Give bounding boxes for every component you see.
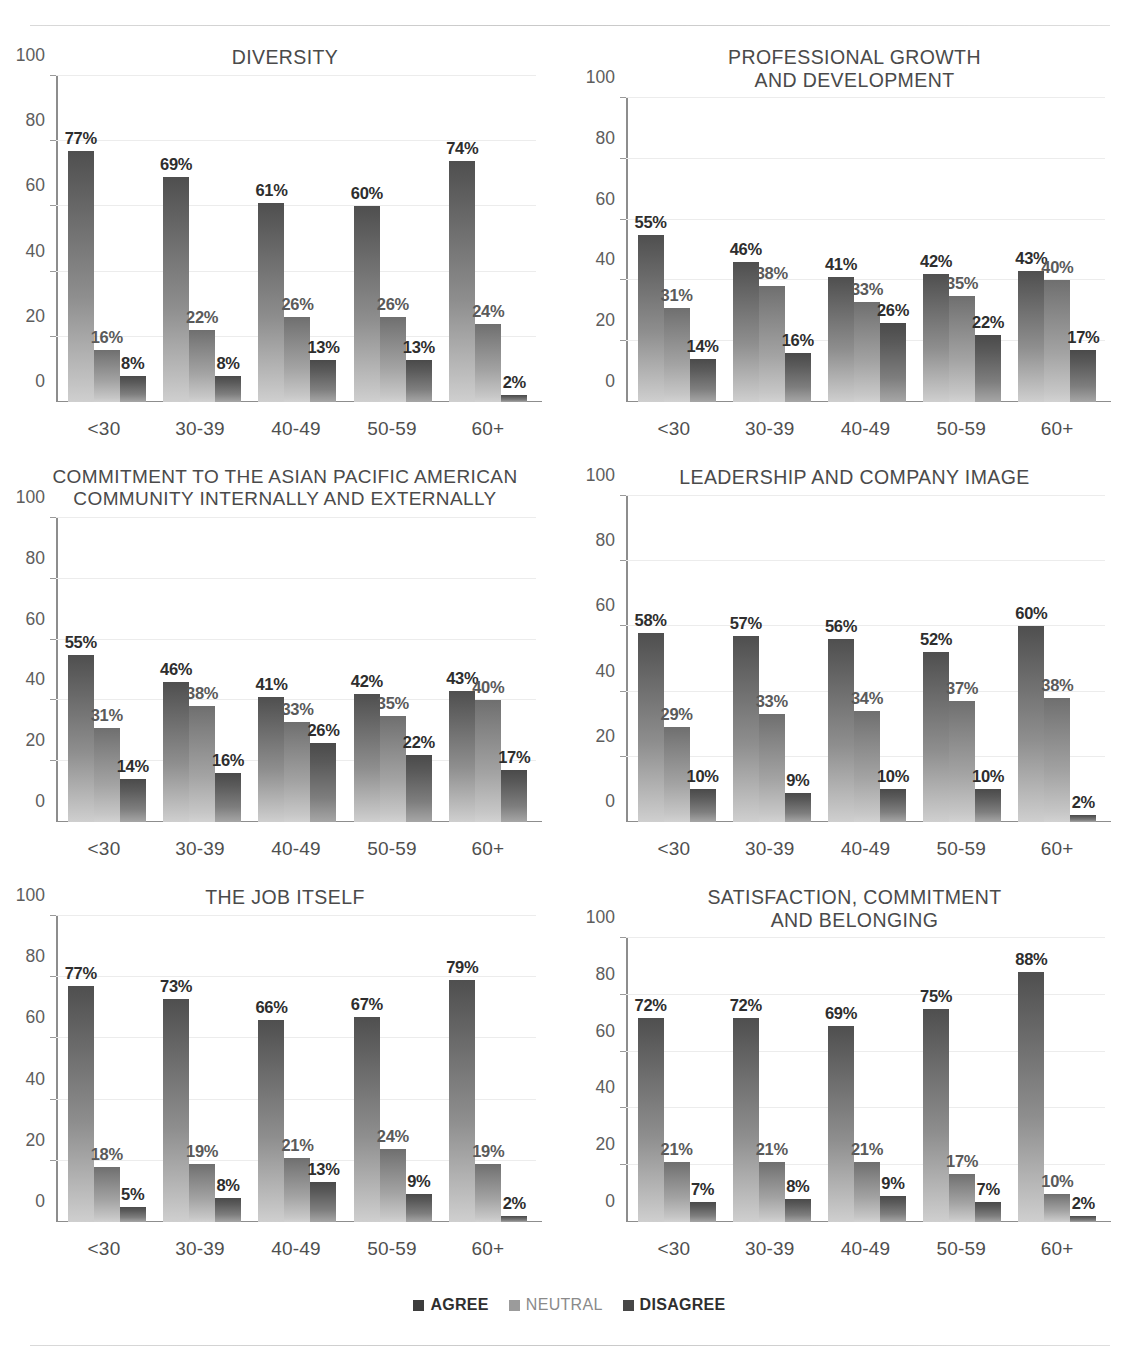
bar-disagree[interactable]: 14% xyxy=(120,779,146,822)
bar-value-label: 21% xyxy=(281,1136,313,1155)
bar-disagree[interactable]: 22% xyxy=(975,335,1001,402)
bar-neutral[interactable]: 37% xyxy=(949,701,975,822)
bar-disagree[interactable]: 7% xyxy=(690,1202,716,1222)
bar-disagree[interactable]: 8% xyxy=(120,376,146,402)
bar-neutral[interactable]: 19% xyxy=(475,1164,501,1222)
bar-neutral[interactable]: 22% xyxy=(189,330,215,402)
bar-value-label: 41% xyxy=(825,255,857,274)
bar-disagree[interactable]: 10% xyxy=(975,789,1001,822)
bar-disagree[interactable]: 14% xyxy=(690,359,716,402)
y-tick-mark xyxy=(50,140,56,141)
bar-disagree[interactable]: 17% xyxy=(1070,350,1096,402)
y-tick-mark xyxy=(50,1099,56,1100)
bar-disagree[interactable]: 2% xyxy=(1070,1216,1096,1222)
bar-neutral[interactable]: 18% xyxy=(94,1167,120,1222)
bar-disagree[interactable]: 10% xyxy=(690,789,716,822)
bar-agree[interactable]: 56% xyxy=(828,639,854,822)
bar-neutral[interactable]: 16% xyxy=(94,350,120,402)
bar-value-label: 38% xyxy=(186,684,218,703)
bar-disagree[interactable]: 13% xyxy=(310,360,336,402)
bar-agree[interactable]: 72% xyxy=(638,1018,664,1222)
bar-agree[interactable]: 69% xyxy=(828,1026,854,1222)
bar-agree[interactable]: 52% xyxy=(923,652,949,822)
bar-disagree[interactable]: 26% xyxy=(310,743,336,822)
bar-neutral[interactable]: 38% xyxy=(1044,698,1070,822)
bar-agree[interactable]: 43% xyxy=(449,691,475,822)
bar-neutral[interactable]: 35% xyxy=(380,716,406,822)
bar-agree[interactable]: 55% xyxy=(638,235,664,402)
bar-disagree[interactable]: 2% xyxy=(1070,815,1096,822)
bar-disagree[interactable]: 5% xyxy=(120,1207,146,1222)
bar-disagree[interactable]: 8% xyxy=(215,1198,241,1222)
bar-value-label: 31% xyxy=(661,286,693,305)
bar-disagree[interactable]: 9% xyxy=(880,1196,906,1222)
bar-agree[interactable]: 77% xyxy=(68,986,94,1222)
chart-panel-professional-growth-and-development: PROFESSIONAL GROWTH AND DEVELOPMENT02040… xyxy=(570,40,1139,460)
bar-agree[interactable]: 55% xyxy=(68,655,94,822)
x-axis-label: 40-49 xyxy=(254,838,338,860)
bar-disagree[interactable]: 2% xyxy=(501,1216,527,1222)
bar-agree[interactable]: 73% xyxy=(163,999,189,1222)
bar-disagree[interactable]: 7% xyxy=(975,1202,1001,1222)
bar-disagree[interactable]: 10% xyxy=(880,789,906,822)
x-axis-label: 30-39 xyxy=(728,838,812,860)
bar-neutral[interactable]: 17% xyxy=(949,1174,975,1222)
legend-item-neutral[interactable]: NEUTRAL xyxy=(509,1296,603,1314)
bar-disagree[interactable]: 22% xyxy=(406,755,432,822)
bar-disagree[interactable]: 8% xyxy=(215,376,241,402)
bar-value-label: 17% xyxy=(946,1152,978,1171)
bar-agree[interactable]: 42% xyxy=(923,274,949,402)
bar-neutral[interactable]: 33% xyxy=(759,714,785,822)
bar-value-label: 42% xyxy=(351,672,383,691)
bar-agree[interactable]: 72% xyxy=(733,1018,759,1222)
bar-disagree[interactable]: 16% xyxy=(215,773,241,822)
bar-agree[interactable]: 69% xyxy=(163,177,189,402)
bar-agree[interactable]: 79% xyxy=(449,980,475,1222)
legend-item-agree[interactable]: AGREE xyxy=(413,1296,488,1314)
bar-agree[interactable]: 67% xyxy=(354,1017,380,1222)
bar-group: 66%21%13% xyxy=(258,916,336,1222)
bar-neutral[interactable]: 21% xyxy=(664,1162,690,1222)
bar-disagree[interactable]: 26% xyxy=(880,323,906,402)
bar-neutral[interactable]: 35% xyxy=(949,296,975,402)
bar-agree[interactable]: 58% xyxy=(638,633,664,822)
bar-disagree[interactable]: 2% xyxy=(501,395,527,402)
chart-title: LEADERSHIP AND COMPANY IMAGE xyxy=(570,460,1139,496)
bar-disagree[interactable]: 8% xyxy=(785,1199,811,1222)
bar-neutral[interactable]: 10% xyxy=(1044,1194,1070,1222)
bar-neutral[interactable]: 19% xyxy=(189,1164,215,1222)
y-tick-mark xyxy=(50,976,56,977)
bar-neutral[interactable]: 26% xyxy=(380,317,406,402)
y-tick-mark xyxy=(620,691,626,692)
bar-value-label: 21% xyxy=(661,1140,693,1159)
bar-agree[interactable]: 77% xyxy=(68,151,94,402)
bar-agree[interactable]: 42% xyxy=(354,694,380,822)
bar-disagree[interactable]: 13% xyxy=(310,1182,336,1222)
y-tick-label: 100 xyxy=(586,907,615,928)
chart-panel-the-job-itself: THE JOB ITSELF02040608010077%18%5%73%19%… xyxy=(0,880,570,1280)
bar-neutral[interactable]: 21% xyxy=(759,1162,785,1222)
bar-neutral[interactable]: 21% xyxy=(854,1162,880,1222)
bar-disagree[interactable]: 9% xyxy=(406,1194,432,1222)
bar-agree[interactable]: 57% xyxy=(733,636,759,822)
bar-agree[interactable]: 60% xyxy=(1018,626,1044,822)
bar-neutral[interactable]: 24% xyxy=(475,324,501,402)
bar-agree[interactable]: 75% xyxy=(923,1009,949,1222)
bar-disagree[interactable]: 16% xyxy=(785,353,811,402)
bar-disagree[interactable]: 17% xyxy=(501,770,527,822)
bar-neutral[interactable]: 24% xyxy=(380,1149,406,1222)
bar-agree[interactable]: 66% xyxy=(258,1020,284,1222)
x-axis-label: <30 xyxy=(62,418,146,440)
legend-item-disagree[interactable]: DISAGREE xyxy=(623,1296,726,1314)
bar-agree[interactable]: 43% xyxy=(1018,271,1044,402)
bar-agree[interactable]: 74% xyxy=(449,161,475,402)
plot-area: 02040608010077%16%8%69%22%8%61%26%13%60%… xyxy=(56,76,536,402)
bar-group: 73%19%8% xyxy=(163,916,241,1222)
bar-value-label: 10% xyxy=(877,767,909,786)
plot-area: 02040608010055%31%14%46%38%16%41%33%26%4… xyxy=(56,518,536,822)
bar-neutral[interactable]: 26% xyxy=(284,317,310,402)
bar-group: 79%19%2% xyxy=(449,916,527,1222)
bar-disagree[interactable]: 9% xyxy=(785,793,811,822)
y-tick-label: 0 xyxy=(605,1191,615,1212)
bar-disagree[interactable]: 13% xyxy=(406,360,432,402)
